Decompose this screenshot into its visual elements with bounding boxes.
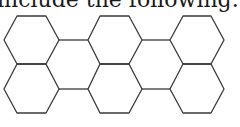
hexagon-diagram <box>0 0 240 127</box>
hexagon-r1-c1 <box>4 16 59 64</box>
hexagon-r1-c3 <box>170 16 224 64</box>
hexagon-r2-c2 <box>88 64 142 113</box>
hexagon-r2-c3 <box>170 64 224 113</box>
hexagon-r1-c2 <box>88 16 142 64</box>
hexagon-r2-c1 <box>4 64 59 113</box>
